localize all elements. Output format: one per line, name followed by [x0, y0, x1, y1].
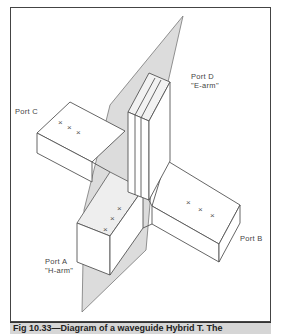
port-d-alias: "E-arm": [191, 81, 219, 90]
port-d-label: Port D "E-arm": [191, 72, 219, 90]
port-c-label: Port C: [15, 107, 38, 116]
marker-c-3: ×: [76, 128, 81, 137]
marker-a-1: ×: [117, 204, 122, 213]
marker-b-1: ×: [186, 198, 191, 207]
marker-a-3: ×: [103, 225, 108, 234]
marker-b-2: ×: [198, 205, 203, 214]
marker-c-1: ×: [58, 118, 63, 127]
port-a-name: Port A: [45, 257, 73, 266]
port-a-label: Port A "H-arm": [45, 257, 73, 275]
port-d-name: Port D: [191, 72, 219, 81]
port-c-name: Port C: [15, 107, 38, 116]
marker-c-2: ×: [67, 123, 72, 132]
marker-a-2: ×: [110, 214, 115, 223]
marker-b-3: ×: [210, 211, 215, 220]
port-b-label: Port B: [240, 234, 263, 243]
port-b-name: Port B: [240, 234, 263, 243]
port-a-alias: "H-arm": [45, 266, 73, 275]
figure-caption: Fig 10.33—Diagram of a waveguide Hybrid …: [10, 322, 271, 334]
